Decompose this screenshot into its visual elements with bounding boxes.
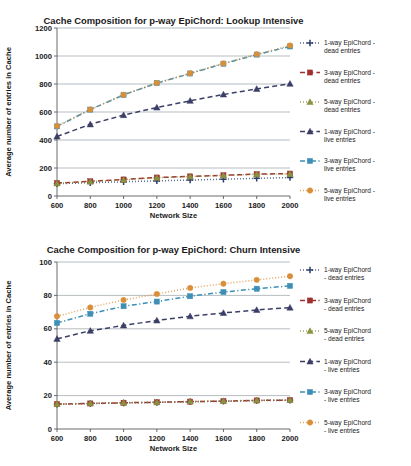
marker-square bbox=[307, 298, 312, 303]
legend-item-live_5way[interactable]: 5-way EpiChord- live entries bbox=[300, 419, 371, 434]
legend-label-line1: 1-way EpiChord bbox=[324, 358, 371, 366]
legend-item-live_3way[interactable]: 3-way EpiChord- live entries bbox=[300, 388, 371, 403]
x-tick-label: 800 bbox=[84, 201, 97, 210]
marker-square bbox=[121, 304, 126, 309]
x-tick-label: 600 bbox=[51, 201, 64, 210]
legend-label-line1: 5-way EpiChord - bbox=[324, 187, 375, 195]
y-tick-label: 600 bbox=[39, 108, 52, 117]
marker-circle bbox=[254, 52, 259, 57]
legend-label-line1: 3-way EpiChord - bbox=[324, 157, 375, 165]
chart-title: Cache Composition for p-way EpiChord: Lo… bbox=[44, 15, 304, 26]
legend-label-line1: 1-way EpiChord - bbox=[324, 39, 375, 47]
legend-item-live_5way[interactable]: 5-way EpiChord -live entries bbox=[300, 187, 375, 202]
legend-label-line2: - live entries bbox=[324, 366, 360, 373]
x-tick-label: 1200 bbox=[148, 201, 165, 210]
legend-label-line1: 5-way EpiChord - bbox=[324, 98, 375, 106]
legend-label-line1: 1-way EpiChord - bbox=[324, 128, 375, 136]
marker-circle bbox=[88, 305, 93, 310]
legend-item-dead_3way[interactable]: 3-way EpiChord- dead entries bbox=[300, 297, 371, 312]
legend-item-dead_1way[interactable]: 1-way EpiChord -dead entries bbox=[300, 39, 375, 54]
marker-triangle bbox=[120, 112, 126, 118]
y-tick-label: 40 bbox=[44, 358, 52, 367]
y-tick-label: 400 bbox=[39, 136, 52, 145]
legend-item-live_1way[interactable]: 1-way EpiChord- live entries bbox=[300, 358, 371, 373]
marker-circle bbox=[287, 43, 292, 48]
marker-circle bbox=[307, 188, 312, 193]
x-tick-label: 2000 bbox=[282, 201, 299, 210]
x-tick-label: 1800 bbox=[248, 434, 265, 443]
y-tick-label: 20 bbox=[44, 391, 52, 400]
legend-item-dead_5way[interactable]: 5-way EpiChord- dead entries bbox=[300, 327, 371, 342]
marker-triangle bbox=[287, 81, 293, 87]
x-tick-label: 1600 bbox=[215, 434, 232, 443]
marker-circle bbox=[187, 285, 192, 290]
legend-label-line1: 3-way EpiChord bbox=[324, 388, 371, 396]
x-tick-label: 1200 bbox=[148, 434, 165, 443]
marker-circle bbox=[287, 273, 292, 278]
legend-label-line2: - live entries bbox=[324, 427, 360, 434]
series-line bbox=[57, 46, 290, 126]
y-tick-label: 80 bbox=[44, 291, 52, 300]
marker-square bbox=[54, 320, 59, 325]
legend-label-line2: dead entries bbox=[324, 47, 361, 54]
legend-item-dead_5way[interactable]: 5-way EpiChord -dead entries bbox=[300, 98, 375, 113]
series-line bbox=[57, 46, 290, 127]
marker-circle bbox=[88, 107, 93, 112]
y-tick-label: 200 bbox=[39, 164, 52, 173]
marker-circle bbox=[187, 71, 192, 76]
x-tick-label: 1000 bbox=[115, 434, 132, 443]
marker-circle bbox=[221, 281, 226, 286]
legend-label-line2: dead entries bbox=[324, 77, 361, 84]
marker-square bbox=[221, 290, 226, 295]
legend-label-line2: dead entries bbox=[324, 106, 361, 113]
y-tick-label: 100 bbox=[39, 258, 52, 267]
x-tick-label: 2000 bbox=[282, 434, 299, 443]
y-tick-label: 1000 bbox=[35, 52, 52, 61]
marker-circle bbox=[54, 123, 59, 128]
legend-label-line2: live entries bbox=[324, 195, 356, 202]
y-tick-label: 60 bbox=[44, 324, 52, 333]
marker-circle bbox=[154, 80, 159, 85]
legend-label-line1: 3-way EpiChord - bbox=[324, 69, 375, 77]
legend-label-line2: live entries bbox=[324, 136, 356, 143]
marker-square bbox=[254, 286, 259, 291]
legend-label-line1: 5-way EpiChord bbox=[324, 419, 371, 427]
marker-square bbox=[88, 311, 93, 316]
legend-label-line2: - dead entries bbox=[324, 335, 365, 342]
marker-square bbox=[188, 294, 193, 299]
x-axis-title: Network Size bbox=[150, 211, 197, 220]
x-tick-label: 1400 bbox=[182, 434, 199, 443]
marker-plus bbox=[307, 267, 313, 273]
series-live_3way bbox=[54, 283, 292, 325]
y-tick-label: 0 bbox=[48, 425, 52, 434]
x-tick-label: 600 bbox=[51, 434, 64, 443]
legend-item-dead_1way[interactable]: 1-way EpiChord- dead entries bbox=[300, 266, 371, 281]
y-axis-title: Average number of entries in Cache bbox=[4, 47, 13, 177]
marker-triangle bbox=[154, 104, 160, 110]
churn-intensive-chart: Cache Composition for p-way EpiChord: Ch… bbox=[0, 233, 411, 466]
marker-square bbox=[307, 389, 312, 394]
legend-label-line1: 3-way EpiChord bbox=[324, 297, 371, 305]
legend-label-line1: 5-way EpiChord bbox=[324, 327, 371, 335]
x-tick-label: 1000 bbox=[115, 201, 132, 210]
marker-circle bbox=[307, 420, 312, 425]
legend-label-line1: 1-way EpiChord bbox=[324, 266, 371, 274]
marker-circle bbox=[121, 92, 126, 97]
series-dead_5way bbox=[54, 397, 293, 407]
legend-item-live_3way[interactable]: 3-way EpiChord -live entries bbox=[300, 157, 375, 172]
x-tick-label: 1600 bbox=[215, 201, 232, 210]
legend-label-line2: - dead entries bbox=[324, 274, 365, 281]
marker-square bbox=[154, 299, 159, 304]
marker-circle bbox=[121, 297, 126, 302]
y-tick-label: 1200 bbox=[35, 24, 52, 33]
marker-square bbox=[307, 158, 312, 163]
x-axis-title: Network Size bbox=[150, 444, 197, 453]
marker-square bbox=[307, 70, 312, 75]
marker-plus bbox=[307, 40, 313, 46]
chart-panel-lookup-intensive: Cache Composition for p-way EpiChord: Lo… bbox=[0, 0, 411, 233]
marker-circle bbox=[54, 314, 59, 319]
y-axis-title: Average number of entries in Cache bbox=[4, 281, 13, 411]
marker-circle bbox=[254, 277, 259, 282]
legend-item-dead_3way[interactable]: 3-way EpiChord -dead entries bbox=[300, 69, 375, 84]
legend-item-live_1way[interactable]: 1-way EpiChord -live entries bbox=[300, 128, 375, 143]
